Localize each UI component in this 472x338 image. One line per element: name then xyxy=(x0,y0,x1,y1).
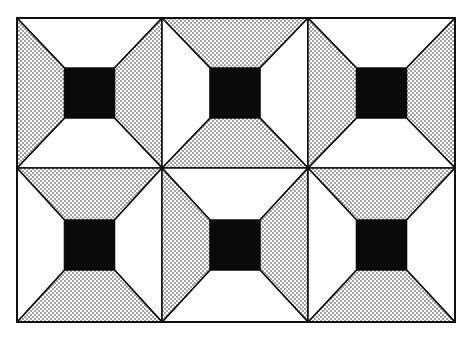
tile-center-square xyxy=(65,68,115,118)
tile-center-square xyxy=(210,220,260,270)
quilt-pattern xyxy=(0,0,472,338)
tile-center-square xyxy=(357,68,407,118)
tiles-group xyxy=(17,18,455,322)
tile-center-square xyxy=(65,220,115,270)
tile-center-square xyxy=(357,220,407,270)
tile-center-square xyxy=(210,68,260,118)
